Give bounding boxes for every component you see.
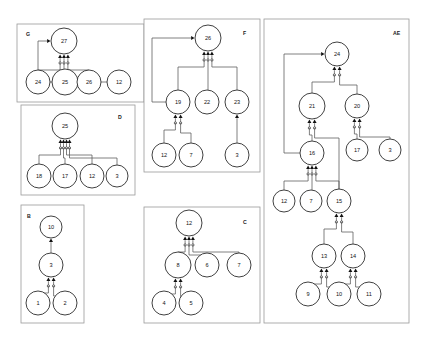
node-label: 27 <box>61 38 67 44</box>
node-label: 14 <box>350 253 356 259</box>
node-label: 15 <box>336 198 342 204</box>
node-label: 3 <box>388 147 391 153</box>
node-ae-15[interactable]: 15 <box>327 189 351 213</box>
node-g-27[interactable]: 27 <box>51 28 77 54</box>
node-label: 17 <box>354 147 360 153</box>
node-c-5[interactable]: 5 <box>179 291 203 315</box>
node-label: 25 <box>62 79 68 85</box>
node-c-7[interactable]: 7 <box>227 253 251 277</box>
node-label: 3 <box>49 262 52 268</box>
node-label: 7 <box>309 198 312 204</box>
panel-d: D251817123 <box>21 105 135 195</box>
panels-layer: G2724252612D251817123B10312F261922231273… <box>17 19 409 323</box>
node-ae-12[interactable]: 12 <box>273 190 295 212</box>
node-ae-14[interactable]: 14 <box>341 244 365 268</box>
node-label: 7 <box>189 152 192 158</box>
node-label: 6 <box>205 262 208 268</box>
node-ae-24[interactable]: 24 <box>325 42 349 66</box>
node-label: 12 <box>89 173 95 179</box>
node-ae-7[interactable]: 7 <box>300 190 322 212</box>
node-d-18[interactable]: 18 <box>27 164 51 188</box>
node-label: 11 <box>366 291 372 297</box>
node-g-26[interactable]: 26 <box>77 70 101 94</box>
node-label: 1 <box>36 300 39 306</box>
node-b-2[interactable]: 2 <box>53 291 77 315</box>
node-c-6[interactable]: 6 <box>195 253 219 277</box>
panel-g: G2724252612 <box>17 24 144 102</box>
node-label: 19 <box>175 99 181 105</box>
node-b-3[interactable]: 3 <box>39 253 63 277</box>
node-label: 3 <box>235 152 238 158</box>
node-ae-11[interactable]: 11 <box>357 282 381 306</box>
node-label: 8 <box>176 262 179 268</box>
node-b-10[interactable]: 10 <box>40 216 62 238</box>
node-label: 12 <box>116 79 122 85</box>
node-label: 26 <box>86 79 92 85</box>
node-label: 24 <box>35 79 41 85</box>
panel-label-d: D <box>118 114 122 120</box>
node-ae-17[interactable]: 17 <box>346 139 368 161</box>
node-label: 2 <box>63 300 66 306</box>
node-f-23[interactable]: 23 <box>225 90 249 114</box>
node-ae-16[interactable]: 16 <box>300 141 324 165</box>
node-ae-20[interactable]: 20 <box>345 94 369 118</box>
node-b-1[interactable]: 1 <box>26 291 50 315</box>
node-label: 12 <box>161 152 167 158</box>
node-d-12[interactable]: 12 <box>80 164 104 188</box>
diagram-canvas: G2724252612D251817123B10312F261922231273… <box>0 0 426 341</box>
panel-label-g: G <box>26 31 30 37</box>
node-label: 18 <box>36 173 42 179</box>
node-ae-10[interactable]: 10 <box>327 282 351 306</box>
node-label: 12 <box>281 198 287 204</box>
panel-ae: AE2421201731612715131491011 <box>264 19 409 323</box>
node-c-12[interactable]: 12 <box>176 210 202 236</box>
node-label: 17 <box>62 173 68 179</box>
node-label: 9 <box>306 291 309 297</box>
node-label: 22 <box>204 99 210 105</box>
node-d-17[interactable]: 17 <box>53 164 77 188</box>
panel-b: B10312 <box>21 205 84 323</box>
node-label: 10 <box>336 291 342 297</box>
node-label: 25 <box>62 123 68 129</box>
panel-label-b: B <box>27 213 31 219</box>
node-label: 7 <box>237 262 240 268</box>
panel-label-ae: AE <box>393 30 401 36</box>
node-f-12[interactable]: 12 <box>152 143 176 167</box>
panel-label-c: C <box>243 219 247 225</box>
node-label: 5 <box>189 300 192 306</box>
node-d-25[interactable]: 25 <box>52 113 78 139</box>
node-g-25[interactable]: 25 <box>52 69 78 95</box>
node-ae-9[interactable]: 9 <box>296 282 320 306</box>
node-label: 20 <box>354 103 360 109</box>
node-d-3[interactable]: 3 <box>106 165 128 187</box>
panel-c: C1286745 <box>144 207 260 323</box>
node-ae-3[interactable]: 3 <box>379 139 401 161</box>
panel-label-f: F <box>243 30 246 36</box>
node-label: 16 <box>309 150 315 156</box>
node-label: 3 <box>115 173 118 179</box>
node-f-3[interactable]: 3 <box>225 143 249 167</box>
node-label: 10 <box>48 224 54 230</box>
node-label: 4 <box>162 300 165 306</box>
node-f-26[interactable]: 26 <box>195 25 221 51</box>
node-label: 24 <box>334 51 340 57</box>
node-f-22[interactable]: 22 <box>195 90 219 114</box>
node-c-4[interactable]: 4 <box>152 291 176 315</box>
panel-f: F261922231273 <box>144 19 260 172</box>
node-label: 12 <box>186 220 192 226</box>
and-or-graph-svg: G2724252612D251817123B10312F261922231273… <box>0 0 426 341</box>
node-f-7[interactable]: 7 <box>179 143 203 167</box>
node-g-12[interactable]: 12 <box>107 70 131 94</box>
node-label: 26 <box>205 35 211 41</box>
node-label: 13 <box>321 253 327 259</box>
node-f-19[interactable]: 19 <box>166 90 190 114</box>
node-label: 23 <box>234 99 240 105</box>
node-ae-21[interactable]: 21 <box>299 93 325 119</box>
node-ae-13[interactable]: 13 <box>312 244 336 268</box>
node-g-24[interactable]: 24 <box>26 70 50 94</box>
node-c-8[interactable]: 8 <box>165 252 191 278</box>
node-label: 21 <box>309 103 315 109</box>
